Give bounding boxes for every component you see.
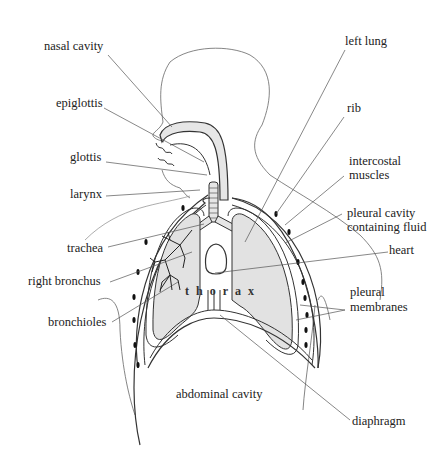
label-glottis: glottis [70,150,101,164]
right-lung [153,214,200,340]
label-pleural-membranes-1: pleural [350,285,385,299]
label-larynx: larynx [70,187,102,201]
label-pleural-cavity-1: pleural cavity [347,206,415,220]
label-abdominal-cavity: abdominal cavity [176,387,262,401]
label-pleural-cavity-2: containing fluid [347,220,427,234]
label-nasal-cavity: nasal cavity [44,39,103,53]
label-trachea: trachea [67,241,103,255]
label-heart: heart [389,243,414,257]
mouth-teeth-upper [156,143,172,154]
label-left-lung: left lung [345,34,387,48]
respiratory-diagram: nasal cavity epiglottis glottis larynx t… [0,0,448,453]
heart-shape [205,244,226,274]
label-rib: rib [347,101,361,115]
label-intercostal-2: muscles [349,168,389,182]
label-right-bronchus: right bronchus [28,274,101,288]
label-intercostal-1: intercostal [349,154,401,168]
tongue [170,144,210,175]
label-diaphragm: diaphragm [352,414,405,428]
chin-outline [162,170,190,198]
label-bronchioles: bronchioles [48,315,106,329]
label-epiglottis: epiglottis [56,96,103,110]
label-pleural-membranes-2: membranes [350,300,408,314]
mouth-teeth-lower [158,158,174,166]
label-thorax: thorax [185,284,261,299]
